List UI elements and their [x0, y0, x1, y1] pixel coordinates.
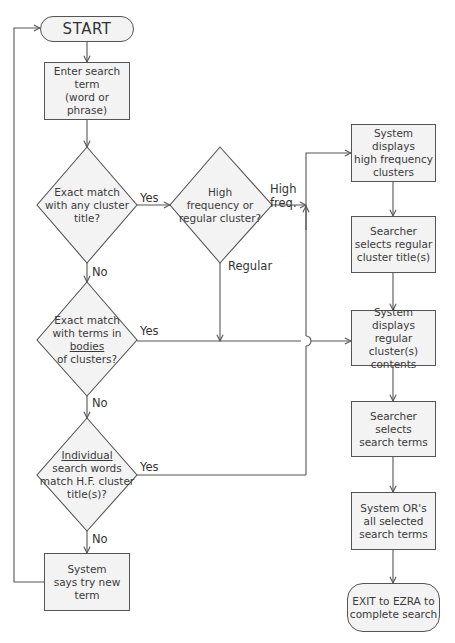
try-new-line-2: says try new term	[45, 576, 129, 602]
or-terms-line-2: all selected	[359, 515, 428, 528]
or-terms-line-3: search terms	[359, 528, 428, 541]
display-regular-line-3: contents	[352, 358, 435, 371]
display-regular-line-1: System displays	[352, 306, 435, 332]
decision-individual-line-2: search words	[40, 462, 134, 475]
decision-bodies-underlined: bodies	[70, 340, 105, 352]
display-hf-line-3: clusters	[352, 166, 435, 179]
start-label: START	[63, 23, 112, 36]
label-freq-high-2: freq.	[270, 196, 297, 210]
decision-title-line-2: with any cluster	[45, 199, 129, 212]
edge-to-display-hf	[306, 153, 351, 336]
decision-bodies-line-2: with terms in bodies	[38, 327, 136, 353]
decision-freq-line-2: frequency or	[179, 199, 261, 212]
display-hf-line-2: high frequency	[352, 153, 435, 166]
enter-search-term-box: Enter search term (word or phrase)	[44, 62, 130, 120]
enter-term-line-1: Enter search term	[45, 65, 129, 91]
exit-line-2: complete search	[350, 608, 437, 621]
or-terms-line-1: System OR's	[359, 502, 428, 515]
or-search-terms-box: System OR's all selected search terms	[351, 492, 436, 550]
label-title-yes: Yes	[140, 191, 159, 205]
start-terminator: START	[40, 16, 134, 42]
decision-freq-line-1: High	[179, 186, 261, 199]
label-individual-no: No	[92, 532, 108, 546]
label-freq-regular: Regular	[228, 259, 272, 273]
try-new-line-1: System	[45, 563, 129, 576]
exit-terminator: EXIT to EZRA to complete search	[347, 583, 440, 632]
display-hf-line-1: System displays	[352, 127, 435, 153]
label-individual-yes: Yes	[140, 460, 159, 474]
select-search-terms-box: Searcher selects search terms	[351, 401, 436, 457]
decision-individual-line-1: Individual	[40, 449, 134, 462]
display-regular-line-2: regular cluster(s)	[352, 332, 435, 358]
decision-freq-line-3: regular cluster?	[179, 212, 261, 225]
decision-individual-line-4: title(s)?	[40, 488, 134, 501]
decision-bodies-line-3: of clusters?	[38, 353, 136, 366]
select-terms-line-1: Searcher selects	[352, 410, 435, 436]
select-regular-line-2: selects regular	[355, 238, 433, 251]
enter-term-line-2: (word or phrase)	[45, 91, 129, 117]
decision-title-line-3: title?	[45, 212, 129, 225]
label-freq-high-1: High	[270, 182, 296, 196]
select-regular-line-1: Searcher	[355, 225, 433, 238]
exit-line-1: EXIT to EZRA to	[350, 595, 437, 608]
decision-bodies-line-1: Exact match	[38, 314, 136, 327]
decision-title-text: Exact match with any cluster title?	[42, 185, 132, 225]
select-regular-title-box: Searcher selects regular cluster title(s…	[351, 216, 436, 273]
decision-individual-line-3: match H.F. cluster	[40, 475, 134, 488]
label-title-no: No	[92, 265, 108, 279]
decision-bodies-text: Exact match with terms in bodies of clus…	[38, 320, 136, 360]
display-hf-clusters-box: System displays high frequency clusters	[351, 124, 436, 182]
decision-individual-text: Individual search words match H.F. clust…	[36, 449, 138, 501]
decision-bodies-line-2a: with terms in	[53, 327, 122, 339]
label-bodies-no: No	[92, 396, 108, 410]
display-regular-contents-box: System displays regular cluster(s) conte…	[351, 310, 436, 366]
label-bodies-yes: Yes	[140, 324, 159, 338]
decision-freq-text: High frequency or regular cluster?	[172, 185, 268, 225]
decision-title-line-1: Exact match	[45, 186, 129, 199]
select-regular-line-3: cluster title(s)	[355, 251, 433, 264]
try-new-term-box: System says try new term	[44, 553, 130, 611]
select-terms-line-2: search terms	[352, 436, 435, 449]
line-hop	[306, 336, 311, 346]
